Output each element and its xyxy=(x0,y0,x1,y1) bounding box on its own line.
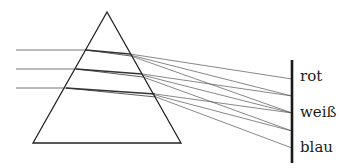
label-red: rot xyxy=(300,69,322,84)
internal-rays xyxy=(66,50,156,97)
prism-diagram xyxy=(0,0,339,168)
label-white: weiß xyxy=(300,105,337,120)
dispersed-rays xyxy=(130,54,292,148)
prism xyxy=(33,12,181,143)
label-blue: blau xyxy=(300,140,333,155)
